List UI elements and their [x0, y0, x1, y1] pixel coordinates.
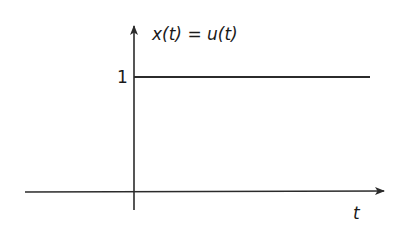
y-tick-label-one: 1: [117, 67, 128, 87]
x-axis-label: t: [353, 203, 361, 223]
x-axis: [25, 191, 384, 192]
unit-step-diagram: x(t) = u(t) 1 t: [0, 0, 406, 228]
function-label: x(t) = u(t): [151, 24, 238, 44]
